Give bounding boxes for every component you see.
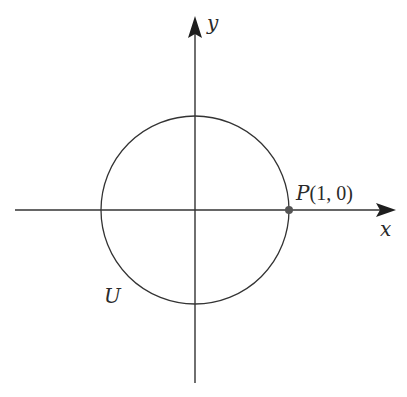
point-p-marker xyxy=(285,206,293,214)
x-axis xyxy=(15,203,396,217)
point-p-label: P(1, 0) xyxy=(295,181,353,205)
unit-circle-diagram: y x U P(1, 0) xyxy=(0,0,407,397)
point-p-name: P xyxy=(295,181,310,205)
point-p-coords: (1, 0) xyxy=(309,182,352,205)
x-axis-label: x xyxy=(380,217,391,241)
y-axis xyxy=(188,16,202,383)
circle-label: U xyxy=(104,284,122,308)
y-axis-label: y xyxy=(206,11,219,35)
